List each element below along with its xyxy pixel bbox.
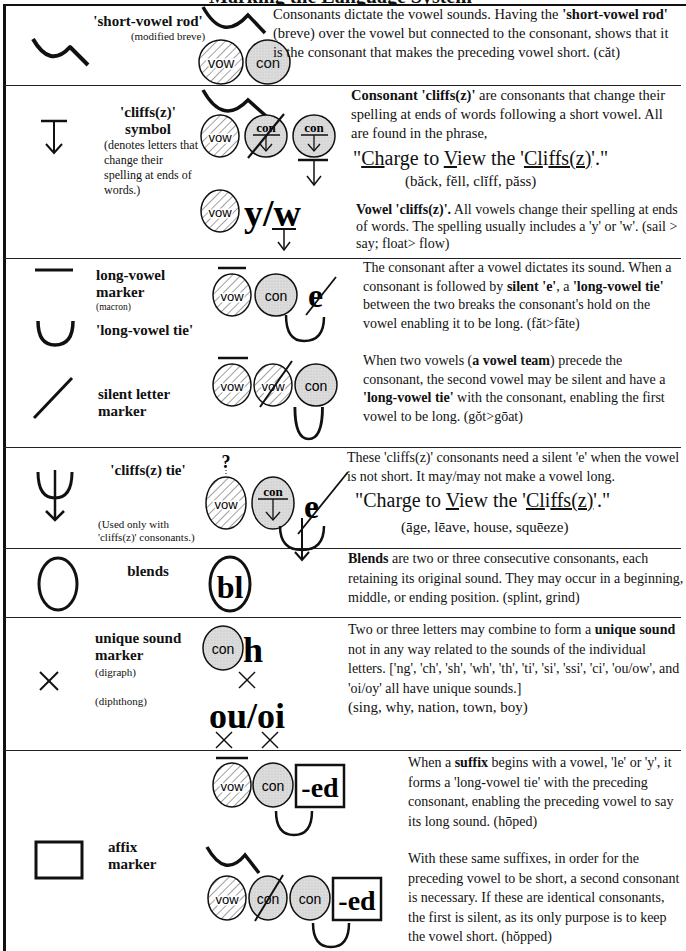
symbol-label: unique sound marker (digraph) (diphthong… bbox=[95, 630, 205, 708]
cliffs-symbol-icon bbox=[39, 118, 69, 158]
svg-text:vow: vow bbox=[208, 130, 232, 145]
row-affix-marker: affix marker vow con -ed vow con con -ed… bbox=[3, 751, 681, 945]
svg-text:vow: vow bbox=[220, 289, 244, 304]
row-unique-sound: unique sound marker (digraph) (diphthong… bbox=[3, 618, 681, 751]
symbol-sublabel: (Used only with 'cliffs(z)' consonants.) bbox=[98, 518, 208, 544]
cliffs-tie-examples: (āge, lēave, house, squēeze) bbox=[401, 518, 568, 537]
symbol-label: 'cliffs(z) tie' bbox=[93, 462, 203, 479]
unique-sound-x-icon bbox=[38, 670, 60, 692]
blend-oval-icon bbox=[36, 555, 80, 613]
affix-box-icon bbox=[34, 840, 86, 882]
svg-text:-ed: -ed bbox=[338, 885, 376, 916]
svg-text:vow: vow bbox=[208, 205, 232, 220]
svg-text:bl: bl bbox=[217, 569, 244, 605]
svg-text:con: con bbox=[299, 891, 322, 907]
diagram-affix-long: vow con -ed bbox=[208, 755, 348, 835]
vowel-cliffs-description: Vowel 'cliffs(z)'. All vowels change the… bbox=[356, 201, 681, 252]
diagram-unique-sound: con h ou/oi bbox=[193, 618, 303, 750]
long-vowel-marker-icon bbox=[33, 267, 75, 273]
row-description: Consonant 'cliffs(z)' are consonants tha… bbox=[351, 86, 681, 143]
unique-sound-examples: (sing, why, nation, town, boy) bbox=[348, 698, 528, 717]
row-description: Two or three letters may combine to form… bbox=[348, 620, 684, 698]
svg-text:h: h bbox=[243, 630, 263, 670]
diagram-blend: bl bbox=[205, 554, 255, 614]
cliffs-examples: (băck, fĕll, clĭff, păss) bbox=[405, 172, 536, 191]
diagram-affix-short: vow con con -ed bbox=[203, 843, 353, 945]
svg-text:?: ? bbox=[222, 452, 231, 472]
svg-text:-ed: -ed bbox=[301, 772, 339, 803]
row-description: Consonants dictate the vowel sounds. Hav… bbox=[273, 5, 678, 62]
diagram-cliffs: vow con con vow y/w bbox=[198, 86, 348, 256]
row-description-long-vowel: The consonant after a vowel dictates its… bbox=[363, 259, 683, 333]
symbol-label: 'cliffs(z)' symbol (denotes letters that… bbox=[98, 104, 198, 198]
svg-text:con: con bbox=[304, 120, 324, 135]
cliffs-phrase: "Charge to View the 'Cliffs(z)'." bbox=[353, 146, 683, 170]
svg-text:ou/oi: ou/oi bbox=[209, 696, 285, 736]
cliffs-tie-icon bbox=[35, 470, 75, 522]
row-description-silent-letter: When two vowels (a vowel team) precede t… bbox=[363, 352, 683, 426]
svg-text:vow: vow bbox=[220, 779, 244, 794]
svg-text:con: con bbox=[305, 378, 328, 394]
row-cliffs-symbol: 'cliffs(z)' symbol (denotes letters that… bbox=[3, 86, 681, 259]
svg-text:vow: vow bbox=[215, 892, 239, 907]
row-short-vowel-rod: 'short-vowel rod' (modified breve) vow c… bbox=[3, 5, 681, 86]
svg-text:con: con bbox=[263, 484, 283, 499]
row-description: Blends are two or three consecutive cons… bbox=[348, 549, 684, 608]
long-vowel-tie-icon bbox=[35, 319, 77, 349]
symbol-label: affix marker bbox=[108, 839, 188, 873]
symbol-label: blends bbox=[108, 563, 188, 580]
row-description: These 'cliffs(z)' consonants need a sile… bbox=[347, 448, 685, 486]
diagram-vowel-team: vow vow con bbox=[208, 355, 348, 445]
diagram-cliffs-tie: ? vow con e bbox=[198, 448, 348, 548]
row-blends: blends bl Blends are two or three consec… bbox=[3, 549, 681, 618]
row-long-vowel-and-silent: long-vowel marker (macron) 'long-vowel t… bbox=[3, 259, 681, 448]
symbol-label: long-vowel marker (macron) 'long-vowel t… bbox=[96, 267, 206, 339]
affix-description-short: With these same suffixes, in order for t… bbox=[408, 849, 683, 947]
symbol-label: silent letter marker bbox=[98, 386, 208, 420]
svg-text:con: con bbox=[265, 288, 288, 304]
row-cliffs-tie: 'cliffs(z) tie' (Used only with 'cliffs(… bbox=[3, 448, 681, 549]
cliffs-phrase: "Charge to View the 'Cliffs(z)'." bbox=[355, 488, 685, 512]
svg-text:con: con bbox=[212, 641, 235, 657]
silent-letter-marker-icon bbox=[31, 375, 75, 421]
svg-text:e: e bbox=[304, 488, 319, 525]
svg-text:vow: vow bbox=[220, 379, 244, 394]
diagram-long-vowel: vow con e bbox=[208, 265, 338, 345]
svg-text:vow: vow bbox=[214, 497, 238, 512]
svg-text:con: con bbox=[262, 778, 285, 794]
svg-text:y/w: y/w bbox=[244, 192, 302, 234]
svg-text:vow: vow bbox=[208, 54, 235, 71]
affix-description-long: When a suffix begins with a vowel, 'le' … bbox=[408, 753, 683, 831]
